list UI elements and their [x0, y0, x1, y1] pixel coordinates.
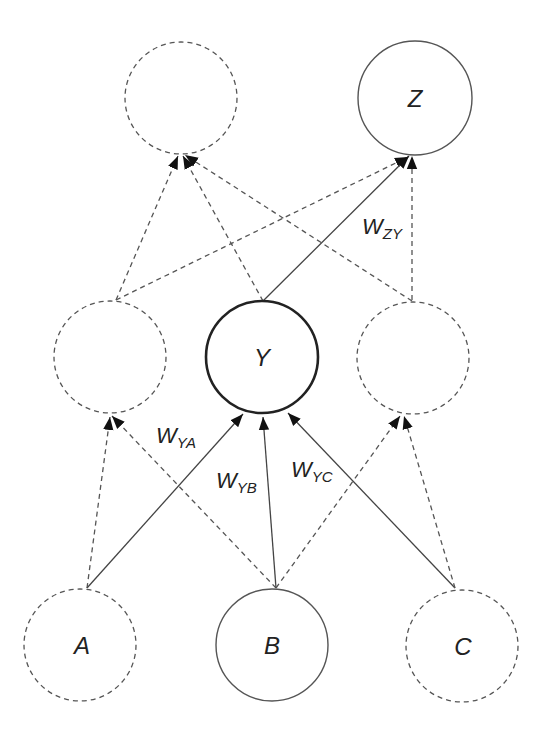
edge-b-to-y — [263, 417, 276, 588]
edge-a-to-mid-left — [87, 417, 110, 588]
label-c: C — [454, 633, 472, 660]
edge-b-to-mid-right — [276, 416, 400, 588]
nodes — [24, 41, 518, 702]
label-z: Z — [407, 85, 424, 112]
weight-label-w-yc: WYC — [291, 457, 333, 485]
edge-y-to-top-left — [183, 156, 263, 301]
label-b: B — [264, 632, 280, 659]
edges-input-to-hidden — [87, 413, 455, 588]
node-top-left — [125, 42, 237, 154]
label-y: Y — [254, 344, 272, 371]
label-a: A — [72, 632, 90, 659]
node-mid-left — [54, 301, 166, 413]
node-mid-right — [357, 302, 469, 414]
edge-mid-left-to-top-left — [116, 156, 178, 300]
weight-label-w-yb: WYB — [216, 468, 257, 496]
weight-label-w-zy: WZY — [362, 214, 403, 242]
network-diagram: Z Y A B C WYA WYB WYC WZY — [0, 0, 542, 738]
weight-label-w-ya: WYA — [156, 423, 196, 451]
edge-c-to-y — [288, 413, 455, 588]
